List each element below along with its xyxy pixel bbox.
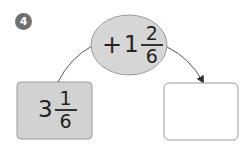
start-numerator: 1 (58, 89, 74, 108)
start-value: 3 1 6 (38, 89, 77, 131)
operation-fraction: 2 6 (141, 24, 163, 66)
connector-line-left (58, 46, 92, 82)
operation-denominator: 6 (144, 47, 160, 66)
answer-value[interactable] (164, 83, 238, 140)
start-denominator: 6 (58, 112, 74, 131)
question-number-badge: 4 (15, 13, 32, 30)
operation-numerator: 2 (144, 24, 160, 43)
plus-sign: + (102, 33, 122, 57)
start-whole: 3 (38, 98, 53, 121)
start-fraction: 1 6 (55, 89, 77, 131)
operation-whole: 1 (124, 33, 139, 56)
connector-arrow-right (167, 47, 203, 82)
operation-value: + 1 2 6 (102, 24, 163, 66)
